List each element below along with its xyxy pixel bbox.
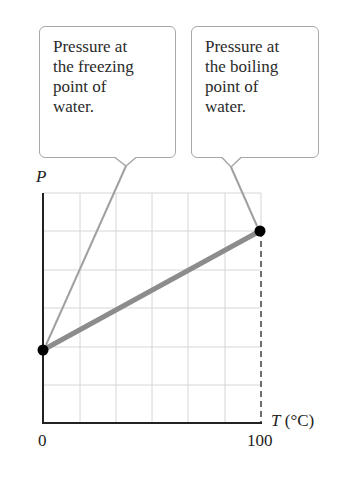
x-axis-variable: T [271, 411, 280, 430]
boiling-point-marker [255, 226, 266, 237]
pressure-temperature-diagram [0, 0, 344, 482]
callout-pointers [115, 157, 241, 167]
x-axis-unit: (°C) [285, 411, 314, 430]
x-tick-0: 0 [38, 431, 47, 451]
x-tick-100: 100 [247, 431, 273, 451]
freezing-point-marker [38, 345, 49, 356]
grid [43, 193, 261, 423]
y-axis-label: P [36, 167, 46, 187]
x-axis-label: T (°C) [271, 411, 314, 431]
